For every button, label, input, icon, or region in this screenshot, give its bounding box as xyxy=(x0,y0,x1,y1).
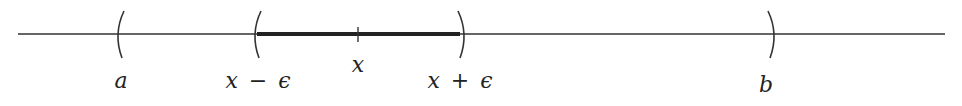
label-x-plus-eps: x + ϵ xyxy=(427,68,492,93)
label-x: x xyxy=(352,52,365,77)
label-x-plus-eps-var: x xyxy=(427,68,440,93)
label-x-minus-eps-var: x xyxy=(225,68,238,93)
label-a: a xyxy=(114,68,127,93)
label-x-plus-eps-op: + xyxy=(451,68,469,93)
number-line-diagram: a x − ϵ x x + ϵ b xyxy=(0,0,962,106)
label-x-plus-eps-eps: ϵ xyxy=(480,68,492,93)
label-x-minus-eps-eps: ϵ xyxy=(278,68,290,93)
label-b: b xyxy=(759,72,773,97)
label-x-minus-eps-op: − xyxy=(249,68,267,93)
label-x-minus-eps: x − ϵ xyxy=(225,68,290,93)
